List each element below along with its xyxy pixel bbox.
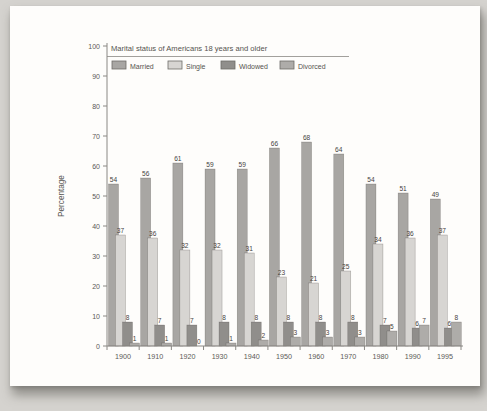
- bar-value-label: 51: [399, 185, 407, 192]
- bar-value-label: 54: [110, 176, 118, 183]
- x-tick-label: 1940: [244, 352, 260, 361]
- bar-value-label: 56: [142, 170, 150, 177]
- bar-divorced-1940: [258, 340, 268, 346]
- y-tick-label: 80: [92, 103, 100, 110]
- y-tick-label: 40: [92, 223, 100, 230]
- y-axis: 0102030405060708090100: [88, 43, 107, 350]
- bar-widowed-1900: [123, 322, 133, 346]
- bar-value-label: 64: [335, 146, 343, 153]
- bar-value-label: 2: [261, 332, 265, 339]
- chart-svg: Marital status of Americans 18 years and…: [0, 0, 487, 411]
- x-tick-label: 1960: [308, 352, 324, 361]
- bar-value-label: 32: [181, 242, 189, 249]
- x-tick-label: 1995: [437, 352, 453, 361]
- x-tick-label: 1900: [115, 352, 131, 361]
- bar-divorced-1970: [355, 337, 365, 346]
- y-tick-label: 70: [92, 133, 100, 140]
- y-tick-label: 0: [96, 343, 100, 350]
- y-tick-label: 90: [92, 73, 100, 80]
- x-tick-label: 1950: [276, 352, 292, 361]
- bar-value-label: 23: [278, 269, 286, 276]
- bar-value-label: 6: [447, 320, 451, 327]
- bar-divorced-1980: [387, 331, 397, 346]
- bar-divorced-1960: [323, 337, 333, 346]
- bar-value-label: 66: [271, 140, 279, 147]
- bar-value-label: 25: [342, 263, 350, 270]
- legend-label-divorced: Divorced: [298, 63, 326, 70]
- y-tick-label: 60: [92, 163, 100, 170]
- y-tick-label: 100: [88, 43, 100, 50]
- bar-divorced-1950: [290, 337, 300, 346]
- legend-label-single: Single: [186, 63, 206, 71]
- x-axis: 1900191019201930194019501960197019801990…: [107, 346, 463, 361]
- y-tick-label: 30: [92, 253, 100, 260]
- x-tick-label: 1970: [340, 352, 356, 361]
- bar-divorced-1995: [451, 322, 461, 346]
- bar-value-label: 8: [254, 314, 258, 321]
- bar-value-label: 49: [432, 191, 440, 198]
- legend-swatch-married: [112, 61, 126, 69]
- x-tick-label: 1910: [147, 352, 163, 361]
- bar-value-label: 3: [326, 329, 330, 336]
- bar-divorced-1990: [419, 325, 429, 346]
- bar-value-label: 8: [287, 314, 291, 321]
- bar-value-label: 31: [246, 245, 254, 252]
- bar-value-label: 1: [133, 335, 137, 342]
- bar-value-label: 36: [406, 230, 414, 237]
- bar-value-label: 59: [206, 161, 214, 168]
- bar-value-label: 8: [126, 314, 130, 321]
- x-tick-label: 1920: [179, 352, 195, 361]
- x-tick-label: 1930: [212, 352, 228, 361]
- bar-value-label: 5: [390, 323, 394, 330]
- legend-swatch-single: [168, 61, 182, 69]
- bars: 5437815636716132705932815931826623836821…: [109, 134, 462, 346]
- bar-value-label: 7: [190, 317, 194, 324]
- bar-value-label: 68: [303, 134, 311, 141]
- y-tick-label: 20: [92, 283, 100, 290]
- bar-value-label: 21: [310, 275, 318, 282]
- bar-value-label: 37: [439, 227, 447, 234]
- bar-value-label: 54: [367, 176, 375, 183]
- legend: MarriedSingleWidowedDivorced: [112, 61, 326, 71]
- bar-value-label: 7: [422, 317, 426, 324]
- y-tick-label: 10: [92, 313, 100, 320]
- legend-swatch-divorced: [280, 61, 294, 69]
- legend-label-married: Married: [130, 63, 154, 70]
- bar-widowed-1930: [219, 322, 229, 346]
- bar-value-label: 8: [222, 314, 226, 321]
- bar-value-label: 8: [351, 314, 355, 321]
- bar-value-label: 0: [197, 338, 201, 345]
- bar-value-label: 3: [294, 329, 298, 336]
- bar-value-label: 36: [149, 230, 157, 237]
- bar-value-label: 8: [319, 314, 323, 321]
- bar-value-label: 1: [165, 335, 169, 342]
- bar-value-label: 7: [158, 317, 162, 324]
- bar-widowed-1920: [187, 325, 197, 346]
- x-tick-label: 1980: [373, 352, 389, 361]
- bar-value-label: 32: [213, 242, 221, 249]
- bar-value-label: 59: [239, 161, 247, 168]
- bar-value-label: 7: [383, 317, 387, 324]
- bar-value-label: 34: [374, 236, 382, 243]
- bar-value-label: 3: [358, 329, 362, 336]
- y-axis-label: Percentage: [57, 175, 66, 217]
- chart-title: Marital status of Americans 18 years and…: [111, 44, 268, 53]
- y-tick-label: 50: [92, 193, 100, 200]
- legend-swatch-widowed: [221, 61, 235, 69]
- bar-value-label: 8: [454, 314, 458, 321]
- bar-value-label: 1: [229, 335, 233, 342]
- bar-value-label: 61: [174, 155, 182, 162]
- x-tick-label: 1990: [405, 352, 421, 361]
- legend-label-widowed: Widowed: [239, 63, 268, 70]
- bar-value-label: 6: [415, 320, 419, 327]
- bar-value-label: 37: [117, 227, 125, 234]
